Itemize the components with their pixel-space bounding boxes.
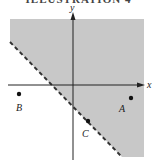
coordinate-plane: y x A B C [0, 0, 157, 165]
point-c-label: C [82, 128, 89, 139]
x-axis-label: x [146, 79, 152, 90]
y-axis-arrow [71, 12, 76, 20]
point-b-label: B [16, 102, 22, 113]
point-b [17, 92, 21, 96]
point-c [86, 119, 90, 123]
point-a-label: A [118, 103, 126, 114]
point-a [129, 96, 133, 100]
y-axis-label: y [69, 2, 75, 13]
shaded-region [10, 19, 144, 157]
